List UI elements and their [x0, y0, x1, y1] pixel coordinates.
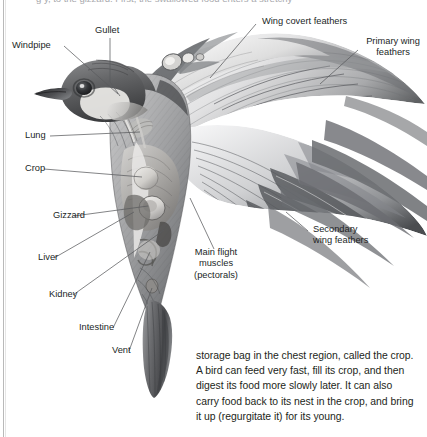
- label-primary-wing-feathers: Primary wing feathers: [362, 36, 424, 59]
- label-gizzard: Gizzard: [53, 210, 85, 221]
- body-line: it up (regurgitate it) for its young.: [196, 409, 418, 424]
- tail-feathers: [143, 300, 172, 398]
- label-liver: Liver: [38, 252, 58, 263]
- label-kidney: Kidney: [49, 289, 77, 300]
- label-wing-covert-feathers: Wing covert feathers: [262, 16, 347, 27]
- body-line: storage bag in the chest region, called …: [196, 348, 418, 363]
- body-paragraph: storage bag in the chest region, called …: [196, 348, 418, 424]
- label-crop: Crop: [25, 163, 45, 174]
- label-vent: Vent: [112, 345, 131, 356]
- wingtip-primaries: [268, 96, 427, 288]
- label-main-flight-muscles: Main flight muscles (pectorals): [186, 247, 246, 281]
- label-lung: Lung: [25, 130, 46, 141]
- label-secondary-wing-feathers: Secondary wing feathers: [313, 224, 368, 247]
- label-windpipe: Windpipe: [12, 40, 51, 51]
- label-gullet: Gullet: [95, 25, 119, 36]
- body-line: A bird can feed very fast, fill its crop…: [196, 363, 418, 378]
- label-intestine: Intestine: [79, 322, 114, 333]
- body-line: digest its food more slowly later. It ca…: [196, 378, 418, 393]
- diagram-page: g y, to the gizzard. First, the swallowe…: [0, 0, 427, 437]
- body-line: carry food back to its nest in the crop,…: [196, 394, 418, 409]
- leader-main-flight: [190, 198, 214, 249]
